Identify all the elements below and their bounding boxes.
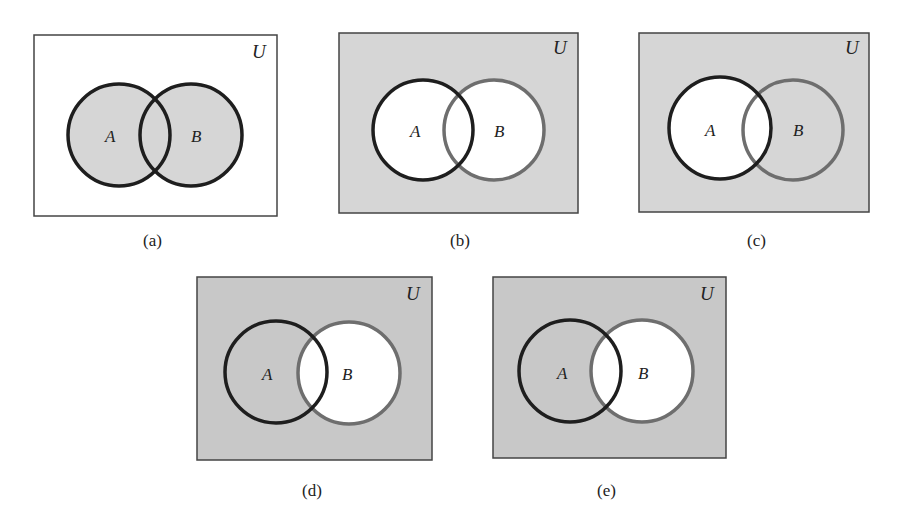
set-b-label: B xyxy=(342,365,353,384)
universe-label: U xyxy=(406,283,421,304)
caption-c: (c) xyxy=(747,231,766,251)
venn-diagram-d: U A B xyxy=(196,276,436,466)
venn-diagram-e: U A B xyxy=(492,276,732,466)
universe-label: U xyxy=(700,283,715,304)
universe-label: U xyxy=(553,37,568,58)
venn-panel-b: U A B xyxy=(338,32,583,217)
set-b-label: B xyxy=(494,122,505,141)
venn-panel-e: U A B xyxy=(492,276,732,466)
caption-d: (d) xyxy=(302,481,322,501)
venn-diagram-b: U A B xyxy=(338,32,583,217)
venn-diagram-a: U A B xyxy=(33,34,283,219)
caption-e: (e) xyxy=(597,481,616,501)
set-b-label: B xyxy=(793,121,804,140)
set-a-label: A xyxy=(261,365,273,384)
universe-label: U xyxy=(252,41,267,62)
set-b-label: B xyxy=(191,127,202,146)
universe-label: U xyxy=(845,37,860,58)
set-a-label: A xyxy=(556,364,568,383)
venn-panel-a: U A B xyxy=(33,34,283,219)
caption-a: (a) xyxy=(143,231,162,251)
set-b-label: B xyxy=(638,364,649,383)
set-a-label: A xyxy=(104,127,116,146)
set-a-label: A xyxy=(704,121,716,140)
venn-diagram-c: U A B xyxy=(638,32,873,217)
venn-panel-d: U A B xyxy=(196,276,436,466)
caption-b: (b) xyxy=(450,231,470,251)
venn-panel-c: U A B xyxy=(638,32,873,217)
set-a-label: A xyxy=(409,122,421,141)
